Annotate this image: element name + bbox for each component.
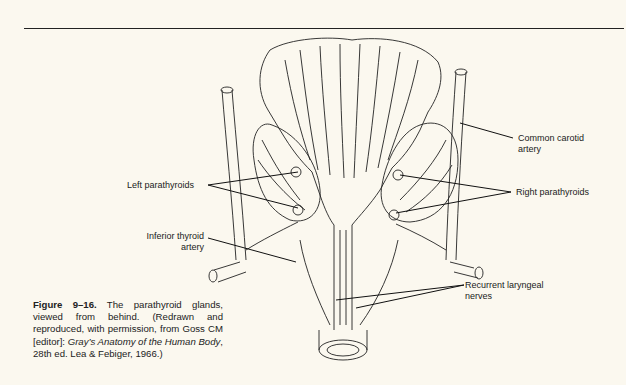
label-inferior-thyroid-artery: Inferior thyroid artery (137, 231, 204, 253)
label-line: Common carotid (518, 133, 584, 144)
label-line: nerves (465, 291, 544, 302)
label-right-parathyroids: Right parathyroids (516, 187, 589, 198)
label-common-carotid: Common carotid artery (518, 133, 584, 155)
figure-number: Figure 9–16. (33, 299, 97, 310)
label-line: artery (518, 144, 584, 155)
label-line: Recurrent laryngeal (465, 280, 544, 291)
label-line: artery (137, 242, 204, 253)
label-left-parathyroids: Left parathyroids (127, 180, 194, 191)
label-recurrent-laryngeal-nerves: Recurrent laryngeal nerves (465, 280, 544, 302)
figure-caption: Figure 9–16. The parathyroid glands, vie… (33, 299, 223, 360)
caption-book-title: Gray’s Anatomy of the Human Body (68, 336, 221, 347)
label-line: Inferior thyroid (137, 231, 204, 242)
